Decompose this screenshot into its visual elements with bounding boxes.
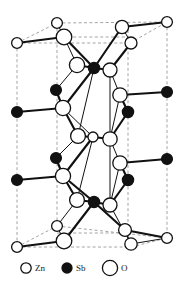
legend-label-zn: Zn (35, 263, 45, 273)
atom-o-a20 (113, 156, 127, 170)
atom-zn-a32 (12, 242, 23, 253)
atom-sb-a12 (162, 87, 173, 98)
structure-canvas: ZnSbO (0, 0, 184, 288)
atom-sb-a24 (122, 174, 133, 185)
atom-sb-a10 (51, 85, 62, 96)
legend-marker-zn (21, 263, 31, 273)
atom-o-a09 (103, 63, 117, 77)
atom-sb-a14 (12, 107, 23, 118)
atom-o-a02 (56, 29, 72, 45)
atom-sb-a26 (88, 196, 99, 207)
atom-sb-a23 (12, 175, 23, 186)
atom-o-a27 (103, 198, 117, 212)
atom-layer (12, 17, 173, 253)
atom-zn-a28 (52, 221, 63, 232)
legend-marker-o (102, 260, 117, 275)
atom-o-a16 (71, 129, 86, 144)
atom-o-a13 (55, 100, 70, 115)
legend-label-sb: Sb (76, 263, 86, 273)
atom-o-a25 (70, 193, 85, 208)
atom-o-a31 (125, 238, 137, 250)
atom-zn-a33 (162, 233, 173, 244)
atom-zn-a03 (12, 38, 23, 49)
crystal-structure-figure: ZnSbO (0, 0, 184, 288)
atom-zn-a17 (88, 132, 98, 142)
atom-sb-a08 (88, 62, 99, 73)
atom-sb-a19 (51, 153, 62, 164)
atom-zn-a29 (119, 224, 132, 237)
atom-o-a18 (103, 132, 117, 146)
atom-zn-a05 (162, 17, 173, 28)
legend-label-o: O (121, 263, 128, 273)
atom-o-a07 (69, 57, 84, 72)
atom-sb-a15 (122, 106, 133, 117)
atom-o-a06 (125, 37, 137, 49)
atom-o-a11 (113, 88, 127, 102)
atom-o-a22 (55, 168, 70, 183)
atom-zn-a01 (52, 18, 63, 29)
bond-Zn-Sb (94, 27, 122, 68)
legend: ZnSbO (21, 260, 128, 275)
atom-o-a30 (56, 233, 72, 249)
atom-zn-a04 (115, 20, 128, 33)
atom-sb-a21 (162, 154, 173, 165)
legend-marker-sb (62, 263, 72, 273)
